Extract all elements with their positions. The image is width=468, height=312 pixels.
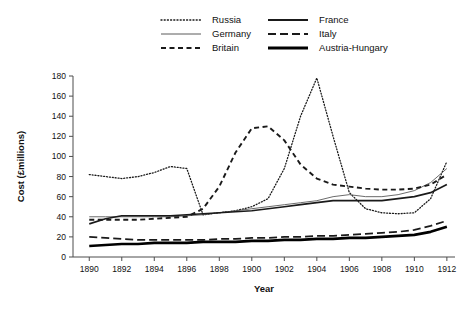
x-tick-label: 1892	[112, 264, 131, 274]
y-tick-label: 180	[52, 71, 66, 81]
x-axis-title: Year	[254, 283, 274, 294]
x-tick-label: 1890	[80, 264, 99, 274]
y-tick-label: 0	[61, 252, 66, 262]
y-axis: 020406080100120140160180	[52, 71, 73, 262]
x-tick-label: 1902	[275, 264, 294, 274]
y-tick-label: 40	[57, 212, 67, 222]
x-axis: 1890189218941896189819001902190419061908…	[73, 257, 457, 274]
x-tick-label: 1910	[405, 264, 424, 274]
x-tick-label: 1908	[372, 264, 391, 274]
plot-area: 020406080100120140160180 189018921894189…	[0, 0, 468, 312]
x-tick-label: 1900	[242, 264, 261, 274]
data-series-group	[89, 78, 447, 246]
x-tick-label: 1912	[437, 264, 456, 274]
x-tick-label: 1906	[340, 264, 359, 274]
y-tick-label: 20	[57, 232, 67, 242]
series-line-britain	[89, 126, 447, 220]
y-tick-label: 100	[52, 151, 66, 161]
series-line-russia	[89, 78, 447, 215]
y-tick-label: 120	[52, 131, 66, 141]
y-tick-label: 160	[52, 91, 66, 101]
x-tick-label: 1898	[210, 264, 229, 274]
y-axis-title: Cost (£millions)	[15, 131, 26, 202]
series-line-austria-hungary	[89, 227, 447, 246]
x-tick-label: 1894	[145, 264, 164, 274]
y-tick-label: 60	[57, 192, 67, 202]
y-tick-label: 80	[57, 172, 67, 182]
y-tick-label: 140	[52, 111, 66, 121]
line-chart: Russia France Germany Italy Britain Aust…	[0, 0, 468, 312]
x-tick-label: 1896	[177, 264, 196, 274]
x-tick-label: 1904	[307, 264, 326, 274]
